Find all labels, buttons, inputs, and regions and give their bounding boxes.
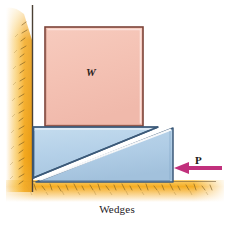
- figure-caption: Wedges: [0, 203, 234, 215]
- ground-surface: [6, 180, 224, 202]
- weight-label: W: [86, 66, 96, 78]
- figure-canvas: [0, 0, 234, 227]
- force-label: P: [195, 154, 202, 166]
- wedges-figure: W P Wedges: [0, 0, 234, 227]
- vertical-wall: [6, 5, 33, 194]
